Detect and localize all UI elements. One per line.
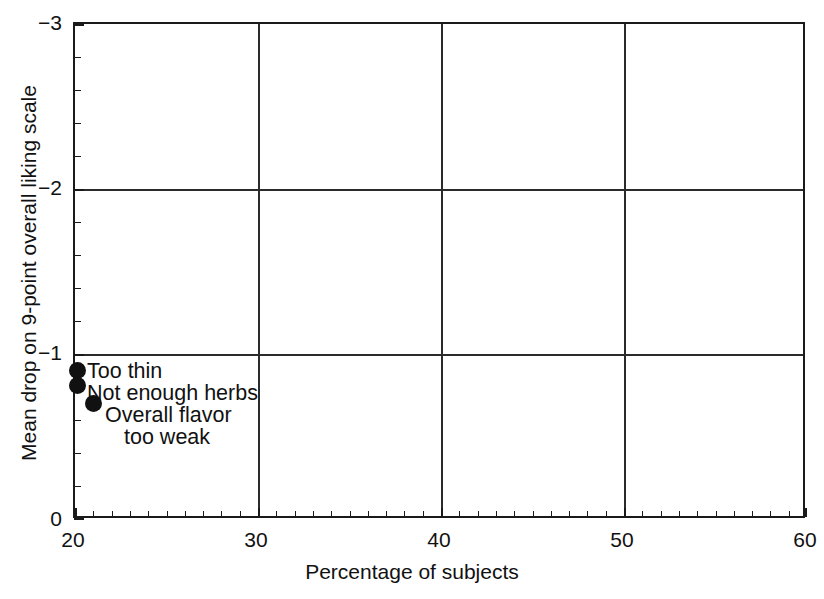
y-tick-label-minus1: −1	[22, 342, 62, 363]
x-tick-label-20: 20	[61, 529, 84, 550]
x-tick-minor	[295, 511, 296, 517]
x-tick-minor	[93, 511, 94, 517]
x-tick-major-20	[75, 508, 77, 517]
y-tick-minor	[74, 222, 81, 223]
x-tick-major-60	[805, 508, 807, 517]
y-tick-minor	[74, 156, 81, 157]
x-tick-minor	[478, 511, 479, 517]
y-axis-title: Mean drop on 9-point overall liking scal…	[17, 38, 41, 508]
x-tick-minor	[551, 511, 552, 517]
y-tick-major-0	[74, 518, 84, 520]
gridline-horizontal-minus2	[75, 189, 803, 191]
x-tick-minor	[789, 511, 790, 517]
x-tick-minor	[240, 511, 241, 517]
annotation-too-thin: Too thin	[87, 360, 162, 382]
x-tick-minor	[770, 511, 771, 517]
y-tick-minor	[74, 123, 81, 124]
y-tick-minor	[74, 255, 81, 256]
x-tick-label-50: 50	[610, 529, 633, 550]
y-tick-major-minus3	[74, 24, 84, 26]
gridline-horizontal-minus1	[75, 354, 803, 356]
y-tick-major-minus2	[74, 189, 84, 191]
x-tick-minor	[167, 511, 168, 517]
gridline-vertical-40	[441, 24, 443, 516]
x-tick-minor	[130, 511, 131, 517]
gridline-vertical-50	[624, 24, 626, 516]
x-tick-minor	[331, 511, 332, 517]
y-tick-minor	[74, 90, 81, 91]
x-tick-minor	[587, 511, 588, 517]
x-tick-minor	[203, 511, 204, 517]
plot-area: Too thin Not enough herbs Overall flavor…	[73, 22, 805, 518]
x-tick-minor	[697, 511, 698, 517]
chart-figure: Mean drop on 9-point overall liking scal…	[0, 0, 824, 599]
x-tick-minor	[533, 511, 534, 517]
x-tick-major-50	[624, 508, 626, 517]
x-tick-label-40: 40	[427, 529, 450, 550]
y-tick-minor	[74, 321, 81, 322]
y-tick-minor	[74, 288, 81, 289]
x-tick-minor	[313, 511, 314, 517]
x-tick-minor	[642, 511, 643, 517]
x-tick-minor	[148, 511, 149, 517]
x-tick-minor	[606, 511, 607, 517]
data-point-not-enough-herbs[interactable]	[69, 377, 86, 394]
x-tick-minor	[221, 511, 222, 517]
x-tick-label-60: 60	[793, 529, 816, 550]
x-tick-minor	[350, 511, 351, 517]
data-point-too-thin[interactable]	[69, 362, 86, 379]
x-tick-minor	[185, 511, 186, 517]
x-tick-minor	[661, 511, 662, 517]
x-tick-minor	[276, 511, 277, 517]
annotation-too-weak: too weak	[124, 426, 210, 448]
x-tick-minor	[404, 511, 405, 517]
x-axis-title: Percentage of subjects	[0, 560, 824, 584]
x-tick-minor	[112, 511, 113, 517]
y-tick-label-minus2: −2	[22, 177, 62, 198]
y-tick-minor	[74, 486, 81, 487]
annotation-overall-flavor: Overall flavor	[105, 404, 232, 426]
annotation-not-enough-herbs: Not enough herbs	[87, 382, 258, 404]
x-tick-minor	[368, 511, 369, 517]
y-tick-minor	[74, 420, 81, 421]
y-tick-minor	[74, 57, 81, 58]
x-tick-minor	[496, 511, 497, 517]
y-tick-minor	[74, 453, 81, 454]
x-tick-major-40	[441, 508, 443, 517]
x-tick-minor	[459, 511, 460, 517]
x-tick-minor	[514, 511, 515, 517]
x-tick-major-30	[258, 508, 260, 517]
y-tick-label-minus3: −3	[22, 12, 62, 33]
x-tick-minor	[734, 511, 735, 517]
x-tick-minor	[679, 511, 680, 517]
x-tick-minor	[752, 511, 753, 517]
x-tick-minor	[716, 511, 717, 517]
y-tick-label-0: 0	[22, 508, 62, 529]
x-tick-label-30: 30	[244, 529, 267, 550]
x-tick-minor	[569, 511, 570, 517]
x-tick-minor	[423, 511, 424, 517]
y-tick-major-minus1	[74, 354, 84, 356]
gridline-vertical-30	[258, 24, 260, 516]
x-tick-minor	[386, 511, 387, 517]
